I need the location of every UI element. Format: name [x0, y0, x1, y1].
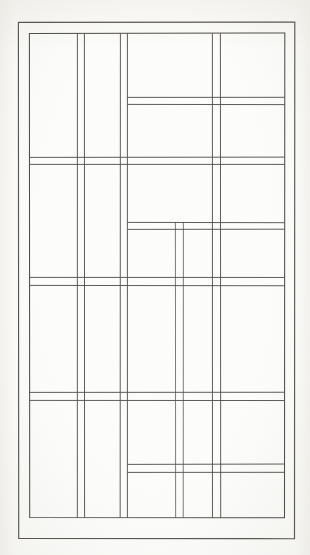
grid-composition-drawing — [0, 9, 310, 555]
vertical-mullions — [77, 33, 220, 517]
running-head-text — [0, 0, 302, 6]
inner-frame — [29, 33, 284, 518]
figure-drawing-area — [0, 9, 310, 555]
horizontal-transoms — [29, 97, 284, 472]
scanned-page — [0, 0, 310, 555]
outer-frame — [18, 22, 294, 539]
inner-frame — [29, 33, 284, 518]
outer-frame — [18, 22, 294, 539]
